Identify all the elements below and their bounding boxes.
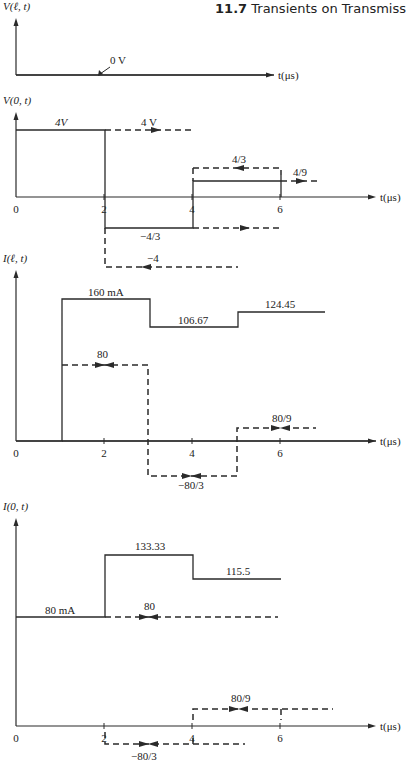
y-axis-label: I(0, t) xyxy=(2,500,28,513)
arrow-right-icon xyxy=(240,225,250,231)
value-label: 80/9 xyxy=(231,692,251,704)
y-axis-label: V(ℓ, t) xyxy=(3,0,31,13)
value-label: −4/3 xyxy=(140,230,161,242)
value-label: 4 V xyxy=(141,116,157,128)
transient-diagram: V(ℓ, t)t(μs)0 VV(0, t)t(μs)02464V4 V4/34… xyxy=(0,0,406,766)
arrow-left-icon xyxy=(148,741,158,747)
waveform-solid xyxy=(16,130,281,228)
y-axis-arrow-icon xyxy=(14,518,19,526)
arrow-right-icon xyxy=(139,614,149,620)
tick-label: 4 xyxy=(189,447,195,459)
value-label: 4/3 xyxy=(232,153,247,165)
value-label: −80/3 xyxy=(178,479,204,491)
tick-label: 6 xyxy=(277,203,283,215)
tick-label: 2 xyxy=(101,203,107,215)
x-axis-arrow-icon xyxy=(368,195,376,200)
value-label: 133.33 xyxy=(135,540,166,552)
tick-label: 0 xyxy=(13,203,19,215)
tick-label: 0 xyxy=(13,447,19,459)
y-axis-arrow-icon xyxy=(14,112,19,120)
wave-dashed xyxy=(193,168,281,175)
wave-dashed xyxy=(105,732,245,744)
chart-v-source: V(0, t)t(μs)02464V4 V4/34/9−4/3−4 xyxy=(3,94,401,270)
x-axis-label: t(μs) xyxy=(380,191,401,204)
arrow-right-icon xyxy=(139,741,149,747)
wave-dashed xyxy=(105,228,238,267)
arrow-left-icon xyxy=(104,362,114,368)
y-axis-label: V(0, t) xyxy=(3,94,31,107)
tick-label: 6 xyxy=(277,447,283,459)
x-axis-arrow-icon xyxy=(368,724,376,729)
value-label: 4V xyxy=(55,116,69,128)
value-label: 124.45 xyxy=(265,298,296,310)
tick-label: 2 xyxy=(101,447,107,459)
arrow-left-icon xyxy=(234,165,244,171)
arrow-left-icon xyxy=(141,264,151,270)
value-label: 80 xyxy=(97,348,109,360)
value-label: 160 mA xyxy=(88,286,124,298)
chart-i-load: I(ℓ, t)t(μs)0246160 mA106.67124.458080/9… xyxy=(2,252,401,491)
x-axis-label: t(μs) xyxy=(380,720,401,733)
value-label: 80/9 xyxy=(272,412,292,424)
arrow-left-icon xyxy=(280,425,290,431)
value-label: 0 V xyxy=(110,54,126,66)
arrow-right-icon xyxy=(271,425,281,431)
arrow-left-icon xyxy=(238,706,248,712)
y-axis-arrow-icon xyxy=(14,270,19,278)
arrow-right-icon xyxy=(296,178,306,184)
x-axis-label: t(μs) xyxy=(278,69,299,82)
chart-i-source: I(0, t)t(μs)0246133.33115.580 mA8080/9−8… xyxy=(2,500,401,762)
tick-label: 6 xyxy=(277,732,283,744)
chart-v-load: V(ℓ, t)t(μs)0 V xyxy=(3,0,299,82)
value-label: 106.67 xyxy=(178,314,209,326)
y-axis-label: I(ℓ, t) xyxy=(2,252,27,265)
wave-dashed xyxy=(193,709,333,720)
arrow-left-icon xyxy=(148,614,158,620)
value-label: 115.5 xyxy=(226,565,251,577)
arrow-right-icon xyxy=(229,706,239,712)
value-label: 80 mA xyxy=(45,604,75,616)
value-label: 80 xyxy=(144,600,156,612)
tick-label: 0 xyxy=(13,732,19,744)
y-axis-arrow-icon xyxy=(14,18,19,26)
arrow-right-icon xyxy=(95,362,105,368)
x-axis-label: t(μs) xyxy=(380,435,401,448)
value-label: −4 xyxy=(147,252,159,264)
tick-label: 4 xyxy=(189,203,195,215)
value-label: 4/9 xyxy=(293,166,308,178)
tick-label: 2 xyxy=(101,732,107,744)
value-label: −80/3 xyxy=(131,750,157,762)
